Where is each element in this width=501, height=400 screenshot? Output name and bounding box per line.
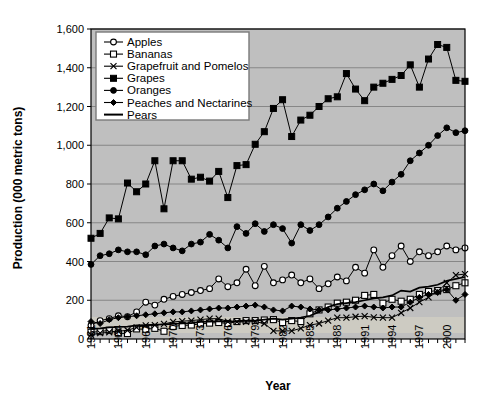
x-tick-label: 2000 (441, 325, 453, 349)
y-tick-label: 0 (78, 333, 84, 345)
y-tick-label: 1,400 (56, 62, 84, 74)
x-tick-label: 1976 (222, 325, 234, 349)
x-tick-label: 1991 (359, 325, 371, 349)
y-axis-title: Production (000 metric tons) (11, 107, 25, 270)
legend-label: Grapes (127, 72, 165, 84)
legend-label: Grapefruit and Pomelos (127, 60, 249, 72)
legend-label: Pears (127, 109, 157, 121)
x-tick-label: 1973 (194, 325, 206, 349)
x-tick-label: 1994 (386, 325, 398, 349)
y-tick-label: 1,600 (56, 23, 84, 35)
x-tick-label: 1988 (331, 325, 343, 349)
y-tick-label: 400 (66, 256, 84, 268)
y-tick-label: 800 (66, 178, 84, 190)
y-tick-label: 600 (66, 217, 84, 229)
x-tick-label: 1979 (249, 325, 261, 349)
legend-label: Bananas (127, 48, 173, 60)
legend-label: Oranges (127, 84, 171, 96)
x-tick-label: 1961 (85, 325, 97, 349)
legend-item-peaches-and-nectarines: Peaches and Nectarines (104, 97, 253, 109)
legend-label: Apples (127, 36, 162, 48)
x-tick-label: 1964 (112, 325, 124, 349)
production-line-chart: 02004006008001,0001,2001,4001,600 196119… (0, 0, 501, 400)
x-tick-label: 1970 (167, 325, 179, 349)
y-tick-label: 1,200 (56, 101, 84, 113)
y-tick-label: 200 (66, 294, 84, 306)
chart-canvas: 02004006008001,0001,2001,4001,600 196119… (0, 0, 501, 400)
x-tick-label: 1982 (277, 325, 289, 349)
x-axis-title: Year (265, 379, 291, 393)
x-tick-label: 1997 (413, 325, 425, 349)
x-tick-label: 1967 (140, 325, 152, 349)
chart-legend: ApplesBananasGrapefruit and PomelosGrape… (96, 32, 253, 121)
x-tick-label: 1985 (304, 325, 316, 349)
legend-label: Peaches and Nectarines (127, 97, 253, 109)
y-tick-label: 1,000 (56, 139, 84, 151)
